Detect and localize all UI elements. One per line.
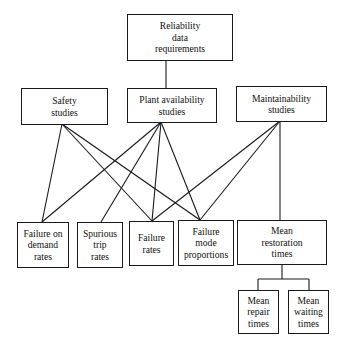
node-reliability-data-requirements: Reliability data requirements xyxy=(127,14,233,61)
node-failure-mode-proportions: Failure mode proportions xyxy=(178,220,234,266)
node-label: Maintainability studies xyxy=(252,93,311,116)
node-mean-restoration-times: Mean restoration times xyxy=(237,220,327,265)
node-failure-on-demand-rates: Failure on demand rates xyxy=(17,222,69,268)
node-label: Spurious trip rates xyxy=(83,228,117,263)
node-failure-rates: Failure rates xyxy=(129,221,174,266)
node-label: Mean waiting times xyxy=(294,295,323,330)
node-spurious-trip-rates: Spurious trip rates xyxy=(77,222,123,268)
node-maintainability-studies: Maintainability studies xyxy=(236,86,327,122)
node-safety-studies: Safety studies xyxy=(21,88,108,125)
node-label: Safety studies xyxy=(51,95,78,118)
node-label: Reliability data requirements xyxy=(155,20,205,55)
node-label: Failure mode proportions xyxy=(184,226,228,261)
node-label: Failure on demand rates xyxy=(23,228,62,263)
node-label: Plant availability studies xyxy=(139,94,204,117)
node-label: Mean repair times xyxy=(247,295,269,330)
node-mean-repair-times: Mean repair times xyxy=(238,290,279,334)
node-plant-availability-studies: Plant availability studies xyxy=(127,88,217,123)
node-label: Mean restoration times xyxy=(261,225,302,260)
node-label: Failure rates xyxy=(138,232,165,255)
node-mean-waiting-times: Mean waiting times xyxy=(288,290,329,334)
